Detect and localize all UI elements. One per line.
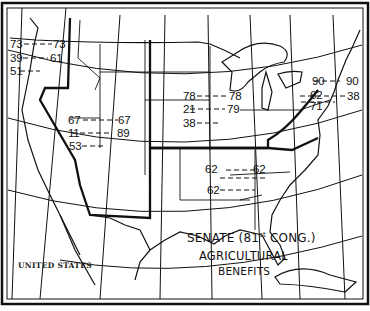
midwest-row1-right: 78 [229, 90, 241, 102]
title-superscript: st [259, 231, 266, 239]
mountain-row1-right: 67 [118, 114, 130, 126]
midwest-row2-left: 21 [183, 103, 195, 115]
pnw-row1-left: 73 [10, 38, 22, 50]
midwest-row1-left: 78 [183, 90, 195, 102]
mountain-row3-left: 53 [69, 140, 81, 152]
northeast-row2-right: 38 [347, 90, 359, 102]
south-row1-left: 62 [205, 163, 217, 175]
midwest-row2-right: 79 [227, 103, 239, 115]
country-label: UNITED STATES [18, 261, 92, 270]
midwest-row3-left: 38 [183, 117, 195, 129]
map-title-line1: SENATE (81st CONG.) [187, 231, 316, 245]
mountain-row2-right: 89 [117, 127, 129, 139]
northeast-row1-left: 90 [312, 75, 324, 87]
northeast-row3-left: 71 [310, 100, 322, 112]
title-text-a: SENATE (81 [187, 231, 259, 245]
south-row1-right: 62 [253, 163, 265, 175]
mountain-row2-left: 11 [68, 127, 80, 139]
pnw-row2-right: 61 [50, 52, 62, 64]
mountain-row1-left: 67 [68, 114, 80, 126]
south-row2-left: 62 [207, 184, 219, 196]
northeast-row1-right: 90 [346, 75, 358, 87]
pnw-row3-left: 51 [10, 65, 22, 77]
pnw-row1-right: 73 [53, 38, 65, 50]
pnw-row2-left: 39 [10, 52, 22, 64]
map-title-line2: AGRICULTURAL [199, 249, 288, 263]
title-text-b: CONG.) [266, 231, 316, 245]
map-title-line3: BENEFITS [218, 265, 270, 277]
